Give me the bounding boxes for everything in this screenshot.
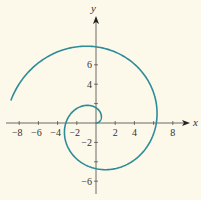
spiral-chart: −8−6−4−224864−2−6 x y (0, 0, 201, 200)
y-axis-label: y (90, 2, 96, 14)
y-tick-label: 4 (87, 79, 92, 90)
y-tick-label: 6 (87, 59, 92, 70)
x-tick-label: −6 (31, 127, 42, 138)
x-tick-label: 8 (170, 127, 175, 138)
x-tick-label: 4 (132, 127, 137, 138)
y-tick-label: −6 (81, 176, 92, 187)
axes: −8−6−4−224864−2−6 (6, 16, 190, 194)
x-axis-label: x (192, 116, 198, 128)
x-tick-label: −2 (69, 127, 80, 138)
x-tick-label: 2 (113, 127, 118, 138)
spiral-curve (11, 46, 157, 169)
x-tick-label: −8 (12, 127, 23, 138)
y-tick-label: −2 (81, 137, 92, 148)
x-tick-label: −4 (50, 127, 61, 138)
